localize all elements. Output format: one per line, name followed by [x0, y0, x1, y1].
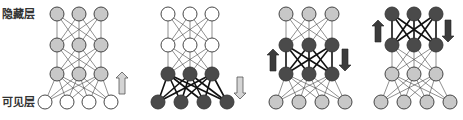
- arrow-down-icon: [234, 77, 246, 99]
- panel-2-top-down-reconstruct: [151, 7, 246, 109]
- arrow-up-icon: [372, 20, 384, 42]
- hidden-unit: [205, 67, 219, 81]
- edges: [381, 14, 450, 102]
- hidden-unit: [279, 67, 293, 81]
- visible-unit: [60, 95, 74, 109]
- arrow-up-icon: [267, 49, 279, 71]
- hidden-unit: [429, 67, 443, 81]
- hidden-unit: [385, 67, 399, 81]
- hidden-unit: [407, 67, 421, 81]
- hidden-unit: [407, 38, 421, 52]
- edges: [276, 14, 345, 102]
- hidden-unit: [279, 38, 293, 52]
- hidden-unit: [385, 38, 399, 52]
- panel-3-middle-layers: [267, 7, 352, 109]
- hidden-unit: [183, 67, 197, 81]
- visible-unit: [38, 95, 52, 109]
- hidden-unit: [72, 67, 86, 81]
- hidden-unit: [385, 7, 399, 21]
- hidden-unit: [302, 67, 316, 81]
- visible-unit: [151, 95, 165, 109]
- arrow-down-icon: [442, 20, 454, 42]
- visible-unit: [269, 95, 283, 109]
- hidden-unit: [302, 38, 316, 52]
- hidden-unit: [205, 38, 219, 52]
- panel-1-bottom-up-pretrain: [38, 7, 128, 109]
- hidden-unit: [161, 7, 175, 21]
- visible-unit: [220, 95, 234, 109]
- visible-unit: [82, 95, 96, 109]
- visible-unit: [420, 95, 434, 109]
- hidden-unit: [302, 7, 316, 21]
- hidden-unit: [279, 7, 293, 21]
- hidden-unit: [94, 38, 108, 52]
- hidden-layer-label: 隐藏层: [2, 7, 35, 21]
- arrow-down-icon: [339, 49, 351, 71]
- edges: [45, 14, 111, 102]
- visible-unit: [338, 95, 352, 109]
- visible-unit: [397, 95, 411, 109]
- hidden-unit: [325, 38, 339, 52]
- panels-group: [38, 7, 457, 109]
- hidden-unit: [50, 7, 64, 21]
- edges: [158, 14, 227, 102]
- hidden-unit: [161, 38, 175, 52]
- hidden-unit: [50, 67, 64, 81]
- panel-4-top-layers: [372, 7, 457, 109]
- hidden-unit: [50, 38, 64, 52]
- visible-unit: [174, 95, 188, 109]
- dbn-training-diagram: 隐藏层 可见层: [0, 0, 463, 120]
- hidden-unit: [72, 7, 86, 21]
- visible-layer-label: 可见层: [2, 96, 35, 109]
- visible-unit: [104, 95, 118, 109]
- hidden-unit: [72, 38, 86, 52]
- arrow-up-icon: [116, 72, 128, 94]
- hidden-unit: [183, 7, 197, 21]
- hidden-unit: [325, 67, 339, 81]
- hidden-unit: [205, 7, 219, 21]
- hidden-unit: [325, 7, 339, 21]
- hidden-unit: [161, 67, 175, 81]
- visible-unit: [443, 95, 457, 109]
- visible-unit: [374, 95, 388, 109]
- hidden-unit: [429, 38, 443, 52]
- hidden-unit: [94, 67, 108, 81]
- hidden-unit: [429, 7, 443, 21]
- visible-unit: [315, 95, 329, 109]
- hidden-unit: [183, 38, 197, 52]
- hidden-unit: [407, 7, 421, 21]
- visible-unit: [292, 95, 306, 109]
- visible-unit: [197, 95, 211, 109]
- hidden-unit: [94, 7, 108, 21]
